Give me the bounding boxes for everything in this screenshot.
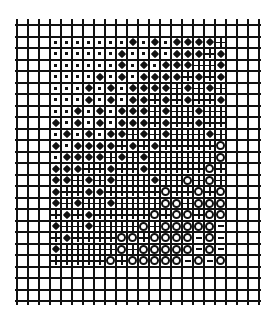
small-square-icon bbox=[54, 110, 57, 113]
dash-icon bbox=[218, 237, 224, 239]
circle-icon bbox=[194, 256, 203, 265]
plus-icon bbox=[128, 153, 137, 162]
grid-cell bbox=[50, 209, 61, 221]
dash-icon bbox=[207, 260, 213, 262]
grid-cell bbox=[105, 244, 116, 256]
small-square-icon bbox=[65, 75, 68, 78]
grid-cell bbox=[182, 255, 193, 267]
grid-cell bbox=[116, 106, 127, 118]
small-square-icon bbox=[109, 75, 112, 78]
small-square-icon bbox=[54, 64, 57, 67]
grid-cell bbox=[138, 117, 149, 129]
grid-cell bbox=[61, 255, 72, 267]
grid-cell bbox=[116, 60, 127, 72]
grid-cell bbox=[182, 198, 193, 210]
grid-cell bbox=[61, 209, 72, 221]
plus-icon bbox=[51, 210, 60, 219]
grid-cell bbox=[72, 117, 83, 129]
grid-cell bbox=[149, 117, 160, 129]
grid-cell bbox=[61, 83, 72, 95]
plus-icon bbox=[128, 130, 137, 139]
diamond-icon bbox=[194, 50, 202, 58]
grid-cell bbox=[50, 244, 61, 256]
diamond-icon bbox=[84, 188, 92, 196]
small-square-icon bbox=[120, 41, 123, 44]
grid-cell bbox=[138, 186, 149, 198]
grid-cell bbox=[215, 221, 226, 233]
grid-cell bbox=[50, 117, 61, 129]
circle-icon bbox=[205, 222, 214, 231]
grid-cell bbox=[127, 221, 138, 233]
circle-icon bbox=[183, 233, 192, 242]
grid-cell bbox=[171, 255, 182, 267]
diamond-icon bbox=[84, 222, 92, 230]
plus-icon bbox=[150, 199, 159, 208]
grid-cell bbox=[83, 71, 94, 83]
plus-icon bbox=[139, 141, 148, 150]
grid-cell bbox=[83, 37, 94, 49]
grid-cell bbox=[83, 186, 94, 198]
grid-horizontal-line bbox=[15, 300, 261, 302]
diamond-icon bbox=[117, 61, 125, 69]
grid-cell bbox=[94, 106, 105, 118]
grid-cell bbox=[193, 152, 204, 164]
diamond-icon bbox=[84, 153, 92, 161]
plus-icon bbox=[172, 164, 181, 173]
grid-cell bbox=[116, 83, 127, 95]
diamond-icon bbox=[95, 188, 103, 196]
grid-cell bbox=[149, 140, 160, 152]
grid-cell bbox=[160, 163, 171, 175]
diamond-icon bbox=[117, 153, 125, 161]
grid-cell bbox=[116, 152, 127, 164]
circle-icon bbox=[183, 210, 192, 219]
grid-cell bbox=[72, 209, 83, 221]
plus-icon bbox=[161, 153, 170, 162]
grid-cell bbox=[83, 152, 94, 164]
diamond-icon bbox=[128, 38, 136, 46]
plus-icon bbox=[205, 141, 214, 150]
diamond-icon bbox=[128, 142, 136, 150]
grid-cell bbox=[127, 117, 138, 129]
dash-icon bbox=[196, 237, 202, 239]
plus-icon bbox=[73, 222, 82, 231]
grid-cell bbox=[160, 244, 171, 256]
grid-cell bbox=[171, 106, 182, 118]
plus-icon bbox=[73, 233, 82, 242]
circle-icon bbox=[161, 233, 170, 242]
circle-icon bbox=[161, 256, 170, 265]
plus-icon bbox=[106, 222, 115, 231]
diamond-icon bbox=[84, 96, 92, 104]
diamond-icon bbox=[172, 73, 180, 81]
circle-icon bbox=[216, 199, 225, 208]
grid-horizontal-line bbox=[15, 24, 261, 26]
circle-icon bbox=[172, 222, 181, 231]
circle-icon bbox=[161, 245, 170, 254]
grid-cell bbox=[182, 140, 193, 152]
grid-cell bbox=[127, 198, 138, 210]
grid-cell bbox=[61, 48, 72, 60]
diamond-icon bbox=[216, 73, 224, 81]
diamond-icon bbox=[106, 199, 114, 207]
grid-cell bbox=[127, 106, 138, 118]
circle-icon bbox=[139, 245, 148, 254]
diamond-icon bbox=[84, 176, 92, 184]
circle-icon bbox=[194, 199, 203, 208]
diamond-icon bbox=[139, 96, 147, 104]
grid-cell bbox=[138, 71, 149, 83]
grid-cell bbox=[94, 140, 105, 152]
grid-cell bbox=[149, 175, 160, 187]
small-square-icon bbox=[142, 41, 145, 44]
grid-cell bbox=[204, 232, 215, 244]
plus-icon bbox=[194, 84, 203, 93]
plus-icon bbox=[106, 245, 115, 254]
grid-cell bbox=[50, 37, 61, 49]
grid-cell bbox=[160, 221, 171, 233]
diamond-icon bbox=[117, 119, 125, 127]
grid-cell bbox=[171, 83, 182, 95]
diamond-icon bbox=[150, 176, 158, 184]
diamond-icon bbox=[139, 61, 147, 69]
circle-icon bbox=[139, 222, 148, 231]
plus-icon bbox=[128, 164, 137, 173]
diamond-icon bbox=[150, 142, 158, 150]
small-square-icon bbox=[65, 87, 68, 90]
